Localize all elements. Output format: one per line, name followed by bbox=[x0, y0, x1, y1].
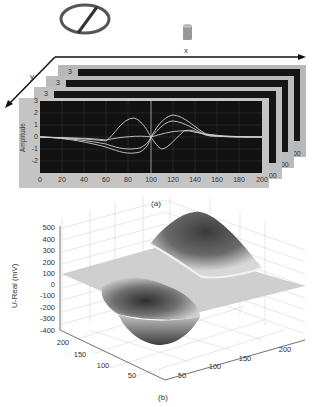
svg-text:20: 20 bbox=[58, 176, 66, 183]
svg-text:180: 180 bbox=[233, 176, 245, 183]
svg-text:400: 400 bbox=[42, 235, 55, 244]
svg-text:200: 200 bbox=[57, 338, 70, 347]
svg-text:500: 500 bbox=[42, 223, 55, 232]
svg-text:-2: -2 bbox=[32, 157, 38, 164]
svg-text:100: 100 bbox=[145, 176, 157, 183]
svg-text:50: 50 bbox=[128, 371, 136, 380]
svg-text:40: 40 bbox=[80, 176, 88, 183]
svg-text:200: 200 bbox=[256, 176, 268, 183]
svg-text:80: 80 bbox=[124, 176, 132, 183]
svg-text:300: 300 bbox=[42, 246, 55, 255]
surface-plot: 500400300 2001000 -100-200-300 -400 U-Re… bbox=[10, 196, 305, 380]
svg-text:150: 150 bbox=[74, 350, 87, 359]
svg-text:0: 0 bbox=[38, 176, 42, 183]
svg-text:2: 2 bbox=[34, 109, 38, 116]
svg-text:140: 140 bbox=[189, 176, 201, 183]
svg-text:3: 3 bbox=[56, 79, 60, 86]
svg-text:200: 200 bbox=[42, 258, 55, 267]
svg-text:50: 50 bbox=[178, 371, 186, 380]
svg-text:0: 0 bbox=[34, 133, 38, 140]
svg-text:3: 3 bbox=[44, 90, 48, 97]
y-axis-label: y bbox=[30, 72, 34, 81]
figure-canvas: x y 3 200 3 200 3 200 bbox=[0, 0, 313, 407]
svg-text:3: 3 bbox=[68, 68, 72, 75]
svg-text:100: 100 bbox=[42, 269, 55, 278]
svg-text:-100: -100 bbox=[40, 291, 55, 300]
svg-text:1: 1 bbox=[34, 121, 38, 128]
svg-text:200: 200 bbox=[279, 345, 292, 354]
amplitude-axis-label: Amplitude bbox=[19, 123, 27, 152]
svg-text:0: 0 bbox=[51, 280, 55, 289]
panel-b-caption: (b) bbox=[158, 393, 168, 402]
x-axis-label: x bbox=[184, 46, 188, 55]
svg-text:3: 3 bbox=[34, 97, 38, 104]
svg-text:-300: -300 bbox=[40, 314, 55, 323]
svg-text:-400: -400 bbox=[40, 326, 55, 335]
amplitude-line-chart: 321 0-1-2 Amplitude 02040 6080100 120140… bbox=[19, 97, 269, 188]
svg-text:100: 100 bbox=[97, 361, 110, 370]
svg-text:160: 160 bbox=[211, 176, 223, 183]
cylinder-electrode-icon bbox=[183, 24, 192, 40]
svg-text:60: 60 bbox=[102, 176, 110, 183]
svg-text:-200: -200 bbox=[40, 303, 55, 312]
z-axis-label: U-Real (mV) bbox=[10, 263, 19, 308]
svg-text:-1: -1 bbox=[32, 145, 38, 152]
svg-text:120: 120 bbox=[167, 176, 179, 183]
svg-text:150: 150 bbox=[239, 354, 252, 363]
ring-probe-icon bbox=[61, 5, 109, 33]
svg-text:100: 100 bbox=[209, 362, 222, 371]
